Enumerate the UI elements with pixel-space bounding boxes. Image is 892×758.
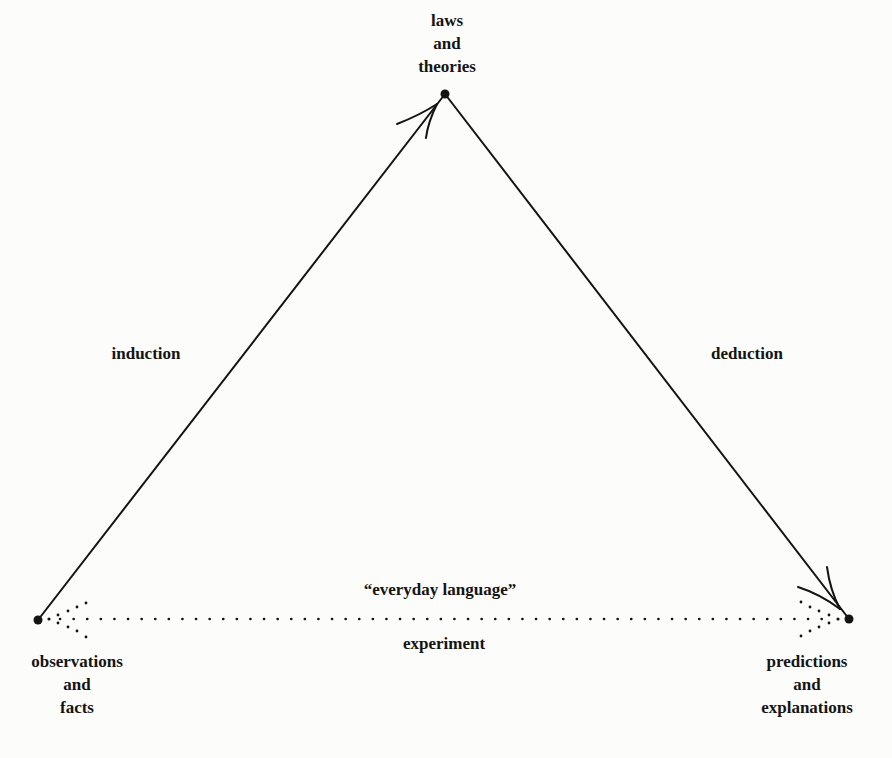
node-label-line: theories — [418, 55, 476, 78]
diagram-canvas: laws and theories observations and facts… — [0, 0, 892, 758]
node-label-line: and — [761, 673, 853, 696]
node-label-line: predictions — [761, 650, 853, 673]
node-label-line: explanations — [761, 696, 853, 719]
node-label-line: facts — [31, 696, 123, 719]
deduction-arrowhead-icon — [798, 567, 840, 609]
left-dotted-arrowhead-icon — [47, 602, 87, 639]
node-label-line: and — [31, 673, 123, 696]
edge-label-induction: induction — [112, 344, 181, 364]
node-dot-top — [441, 90, 450, 99]
node-dot-left — [34, 616, 43, 625]
node-label-predictions-and-explanations: predictions and explanations — [761, 650, 853, 719]
edge-label-experiment: experiment — [403, 634, 485, 654]
node-label-line: and — [418, 32, 476, 55]
node-label-observations-and-facts: observations and facts — [31, 650, 123, 719]
edge-label-deduction: deduction — [711, 344, 783, 364]
node-label-laws-and-theories: laws and theories — [418, 9, 476, 78]
deduction-edge — [445, 94, 849, 619]
edge-label-everyday-language: “everyday language” — [364, 580, 517, 600]
right-dotted-arrowhead-icon — [800, 601, 840, 638]
induction-edge — [38, 94, 445, 620]
induction-arrowhead-icon — [397, 104, 437, 138]
node-dot-right — [845, 615, 854, 624]
node-label-line: laws — [418, 9, 476, 32]
node-label-line: observations — [31, 650, 123, 673]
